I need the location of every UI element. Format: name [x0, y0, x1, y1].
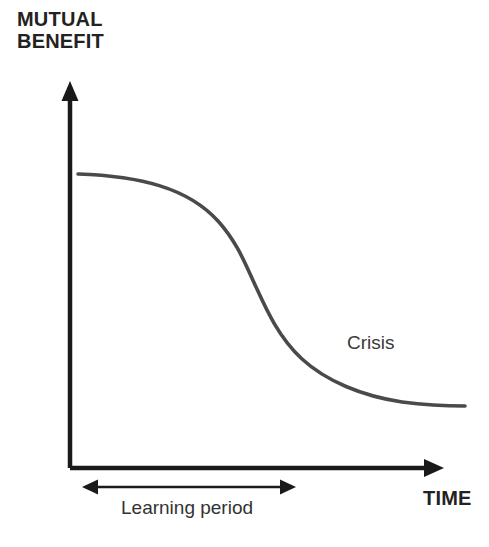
y-axis-title: MUTUALBENEFIT [17, 8, 104, 53]
learning-period-label: Learning period [121, 497, 253, 518]
x-axis-arrowhead-icon [424, 459, 444, 477]
crisis-annotation-label: Crisis [347, 332, 395, 353]
data-curve-mutual-benefit [78, 174, 465, 406]
x-axis-title: TIME [423, 487, 472, 509]
learning-period-left-arrowhead-icon [82, 480, 98, 495]
y-axis-title-line2: BENEFIT [17, 30, 104, 52]
y-axis-title-line1: MUTUAL [17, 8, 103, 30]
chart-canvas [0, 0, 489, 547]
chart-figure: MUTUALBENEFIT TIME Crisis Learning perio… [0, 0, 489, 547]
y-axis-arrowhead-icon [62, 81, 79, 101]
learning-period-right-arrowhead-icon [280, 480, 296, 495]
